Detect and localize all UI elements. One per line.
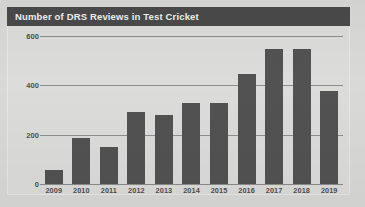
bar-2012[interactable] [127,112,145,184]
bar-slot[interactable] [233,26,261,184]
x-tick-label-2012: 2012 [123,186,151,195]
bar-slot[interactable] [260,26,288,184]
bar-series [40,26,343,184]
bar-slot[interactable] [68,26,96,184]
chart-header: Number of DRS Reviews in Test Cricket [7,7,350,26]
chart-figure: Number of DRS Reviews in Test Cricket 02… [7,7,350,195]
bar-slot[interactable] [178,26,206,184]
bar-2010[interactable] [72,138,90,184]
bar-2014[interactable] [182,103,200,184]
bar-2015[interactable] [210,103,228,184]
x-tick-label-2019: 2019 [315,186,343,195]
x-tick-label-2017: 2017 [260,186,288,195]
y-tick-label: 200 [9,131,39,140]
bar-slot[interactable] [123,26,151,184]
x-tick-label-2013: 2013 [150,186,178,195]
bar-slot[interactable] [315,26,343,184]
x-axis-tick-labels: 2009201020112012201320142015201620172018… [40,184,343,195]
bar-2017[interactable] [265,49,283,184]
bar-slot[interactable] [40,26,68,184]
x-tick-label-2011: 2011 [95,186,123,195]
bar-2018[interactable] [293,49,311,184]
bar-slot[interactable] [288,26,316,184]
x-tick-label-2014: 2014 [178,186,206,195]
x-tick-label-2009: 2009 [40,186,68,195]
x-tick-label-2015: 2015 [205,186,233,195]
x-tick-label-2016: 2016 [233,186,261,195]
page-title: Number of DRS Reviews in Test Cricket [7,11,199,22]
y-tick-label: 0 [9,180,39,189]
bar-slot[interactable] [95,26,123,184]
plot-area: 0200400600 20092010201120122013201420152… [7,26,350,195]
x-tick-label-2010: 2010 [68,186,96,195]
y-tick-label: 400 [9,81,39,90]
bar-2019[interactable] [320,91,338,184]
bar-2009[interactable] [45,170,63,184]
bar-slot[interactable] [150,26,178,184]
y-tick-label: 600 [9,32,39,41]
bar-2016[interactable] [238,74,256,184]
x-tick-label-2018: 2018 [288,186,316,195]
bar-2011[interactable] [100,147,118,184]
bar-2013[interactable] [155,115,173,184]
bar-slot[interactable] [205,26,233,184]
